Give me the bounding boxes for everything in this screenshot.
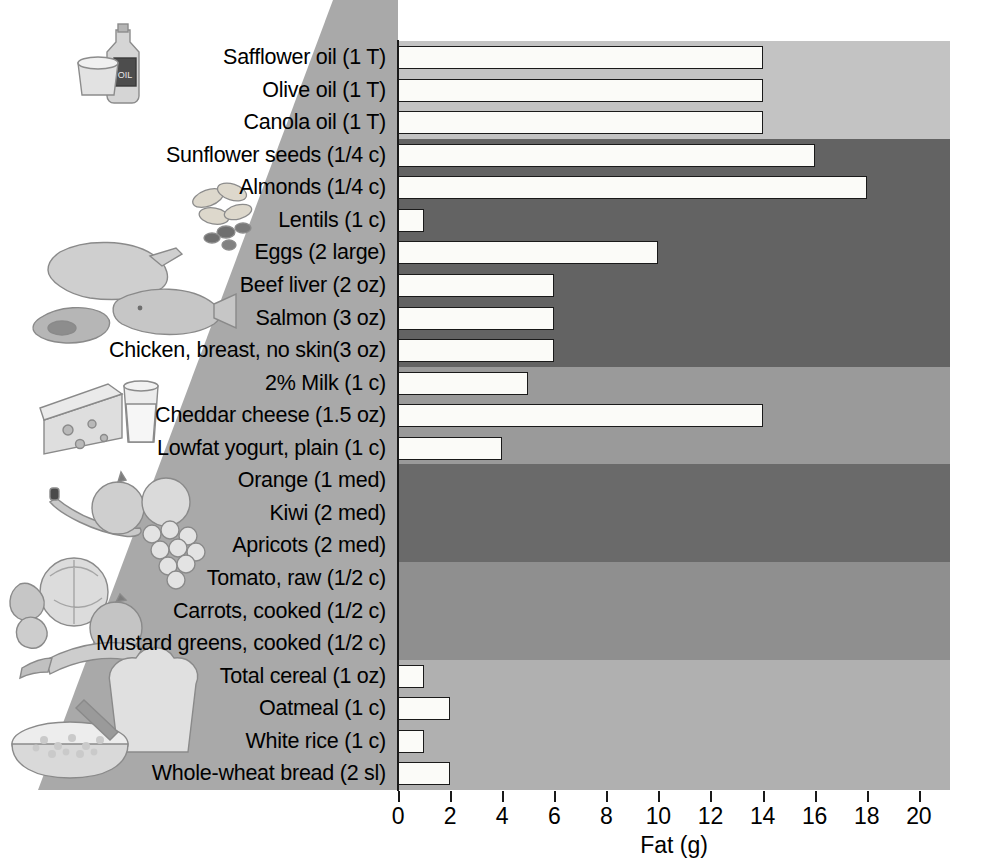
category-label: Orange (1 med) [0,464,392,497]
bar [398,46,763,69]
x-axis-tick [606,791,608,802]
category-label: Canola oil (1 T) [0,106,392,139]
x-axis-tick [710,791,712,802]
bar [398,404,763,427]
bar [398,339,554,362]
bar-row [398,269,950,302]
bar [398,111,763,134]
x-axis-tick [450,791,452,802]
category-label: Kiwi (2 med) [0,497,392,530]
bar [398,241,658,264]
x-axis-tick [658,791,660,802]
category-label: White rice (1 c) [0,725,392,758]
category-label: Almonds (1/4 c) [0,171,392,204]
category-label: Mustard greens, cooked (1/2 c) [0,627,392,660]
plot-area [398,41,950,790]
category-label: Chicken, breast, no skin(3 oz) [0,334,392,367]
category-label: Sunflower seeds (1/4 c) [0,139,392,172]
category-label: Total cereal (1 oz) [0,660,392,693]
bar [398,372,528,395]
bar [398,437,502,460]
bar-row [398,725,950,758]
bar [398,730,424,753]
x-axis-title: Fat (g) [398,832,950,858]
x-axis-tick-label: 14 [733,803,793,830]
category-label: Olive oil (1 T) [0,74,392,107]
x-axis-tick-label: 8 [576,803,636,830]
bar-row [398,497,950,530]
bar-row [398,139,950,172]
category-label: Eggs (2 large) [0,236,392,269]
bar-row [398,529,950,562]
x-axis-tick-label: 0 [368,803,428,830]
x-axis-tick [815,791,817,802]
bar-row [398,399,950,432]
bar-row [398,236,950,269]
bar [398,209,424,232]
bar-row [398,204,950,237]
bar-row [398,660,950,693]
bar-row [398,171,950,204]
bar-row [398,562,950,595]
category-label: Cheddar cheese (1.5 oz) [0,399,392,432]
x-axis-tick-label: 2 [420,803,480,830]
bar [398,274,554,297]
bar-row [398,74,950,107]
category-label: Tomato, raw (1/2 c) [0,562,392,595]
bar-row [398,595,950,628]
x-axis-tick [502,791,504,802]
bar [398,176,867,199]
x-axis-tick [398,791,400,802]
x-axis-tick-label: 6 [524,803,584,830]
x-axis-tick-label: 10 [628,803,688,830]
x-axis-tick [867,791,869,802]
category-labels: Safflower oil (1 T)Olive oil (1 T)Canola… [0,41,392,790]
category-label: 2% Milk (1 c) [0,367,392,400]
bar-row [398,757,950,790]
bar-row [398,41,950,74]
fat-content-bar-chart: OIL [0,0,1005,860]
x-axis-tick [763,791,765,802]
x-axis-tick-label: 4 [472,803,532,830]
category-label: Lentils (1 c) [0,204,392,237]
y-axis-line [397,40,399,791]
category-label: Oatmeal (1 c) [0,692,392,725]
category-label: Carrots, cooked (1/2 c) [0,595,392,628]
category-label: Beef liver (2 oz) [0,269,392,302]
bar-row [398,627,950,660]
category-label: Salmon (3 oz) [0,302,392,335]
x-axis-tick-label: 18 [837,803,897,830]
x-axis-tick [554,791,556,802]
x-axis-tick-label: 12 [680,803,740,830]
category-label: Lowfat yogurt, plain (1 c) [0,432,392,465]
bar-row [398,432,950,465]
x-axis-tick-label: 20 [889,803,949,830]
bar [398,144,815,167]
x-axis-tick-label: 16 [785,803,845,830]
bar-row [398,302,950,335]
bar-rows [398,41,950,790]
bar-row [398,334,950,367]
bar [398,665,424,688]
bar-row [398,106,950,139]
bar [398,762,450,785]
category-label: Whole-wheat bread (2 sl) [0,757,392,790]
bar [398,307,554,330]
bar [398,697,450,720]
bar-row [398,464,950,497]
bar-row [398,367,950,400]
category-label: Safflower oil (1 T) [0,41,392,74]
x-axis-tick [919,791,921,802]
bar-row [398,692,950,725]
category-label: Apricots (2 med) [0,529,392,562]
bar [398,79,763,102]
